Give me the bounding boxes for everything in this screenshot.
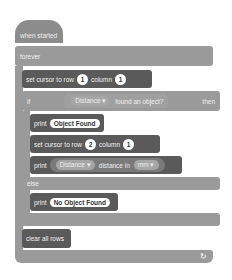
- row-input[interactable]: 1: [77, 74, 88, 85]
- print-distance-block[interactable]: print Distance ▾ distance in mm ▾: [30, 156, 182, 174]
- column-label: column: [99, 141, 120, 148]
- set-cursor-label: set cursor to row: [34, 141, 82, 148]
- condition-label: found an object?: [115, 98, 163, 105]
- else-label: else: [27, 180, 39, 187]
- found-object-condition[interactable]: Distance ▾ found an object?: [64, 94, 168, 108]
- set-cursor-block-2[interactable]: set cursor to row 2 column 1: [30, 135, 160, 153]
- set-cursor-label: set cursor to row: [26, 76, 74, 83]
- distance-reporter[interactable]: Distance ▾ distance in mm ▾: [50, 158, 165, 172]
- print-no-object-found-block[interactable]: print No Object Found: [30, 193, 118, 211]
- loop-arrow-icon: ↻: [200, 252, 207, 261]
- unit-dropdown[interactable]: mm ▾: [134, 160, 159, 170]
- forever-block-header[interactable]: forever: [15, 46, 213, 66]
- column-input[interactable]: 1: [123, 139, 134, 150]
- when-started-label: when started: [20, 32, 57, 39]
- sensor-dropdown[interactable]: Distance ▾: [56, 160, 95, 170]
- column-input[interactable]: 1: [115, 74, 126, 85]
- print-label: print: [34, 162, 47, 169]
- forever-block-footer: ↻: [15, 250, 213, 263]
- when-started-hat-block[interactable]: when started: [15, 20, 63, 43]
- if-label: if: [27, 98, 30, 105]
- then-label: then: [202, 98, 215, 105]
- print-label: print: [34, 199, 47, 206]
- column-label: column: [91, 76, 112, 83]
- row-input[interactable]: 2: [85, 139, 96, 150]
- print-text-input[interactable]: Object Found: [50, 119, 100, 128]
- clear-all-rows-block[interactable]: clear all rows: [22, 229, 71, 248]
- forever-label: forever: [20, 53, 40, 60]
- if-block-arm: [22, 111, 30, 226]
- distance-in-label: distance in: [99, 162, 130, 169]
- print-label: print: [34, 120, 47, 127]
- print-object-found-block[interactable]: print Object Found: [30, 114, 104, 132]
- else-divider: else: [22, 177, 220, 190]
- if-block-header[interactable]: if Distance ▾ found an object? then: [22, 91, 220, 111]
- set-cursor-block-1[interactable]: set cursor to row 1 column 1: [22, 70, 152, 88]
- sensor-dropdown[interactable]: Distance ▾: [71, 96, 110, 106]
- clear-all-rows-label: clear all rows: [26, 235, 64, 242]
- print-text-input[interactable]: No Object Found: [50, 198, 110, 207]
- if-block-footer: [22, 213, 220, 226]
